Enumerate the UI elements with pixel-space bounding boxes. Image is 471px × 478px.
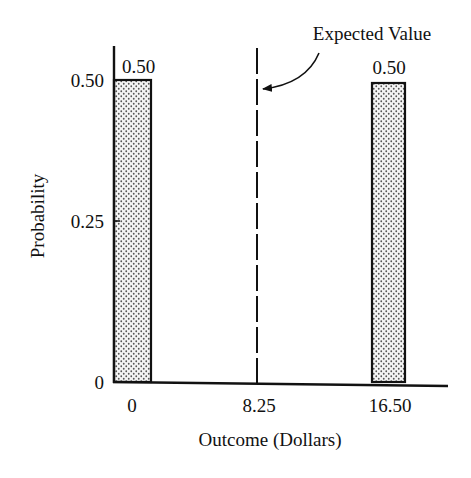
bars-group bbox=[114, 80, 405, 382]
y-tick-label: 0.50 bbox=[71, 70, 104, 91]
expected-value-annotation: Expected Value bbox=[313, 23, 431, 44]
probability-chart: 0 0.25 0.50 0 8.25 16.50 0.50 0.50 Outco… bbox=[0, 0, 471, 478]
x-tick-label: 8.25 bbox=[242, 395, 275, 416]
y-axis-title: Probability bbox=[27, 173, 48, 258]
y-tick-label: 0 bbox=[95, 372, 105, 393]
y-tick-label: 0.25 bbox=[71, 211, 104, 232]
bar-data-label: 0.50 bbox=[122, 56, 155, 77]
bar-data-label: 0.50 bbox=[372, 57, 405, 78]
annotation-arrow bbox=[263, 53, 319, 89]
x-tick-label: 16.50 bbox=[369, 395, 412, 416]
bar bbox=[114, 80, 151, 382]
x-tick-label: 0 bbox=[127, 395, 137, 416]
bar bbox=[372, 83, 405, 382]
x-axis-title: Outcome (Dollars) bbox=[199, 429, 342, 451]
